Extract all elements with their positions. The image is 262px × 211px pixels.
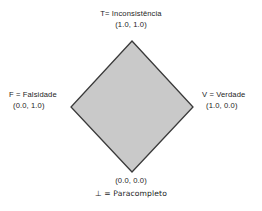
vertex-label-bottom: (0.0, 0.0) ⊥ = Paracompleto bbox=[0, 175, 262, 200]
vertex-label-bottom-name: ⊥ = Paracompleto bbox=[0, 188, 262, 199]
vertex-label-top: T= Inconsistência (1.0, 1.0) bbox=[0, 8, 262, 31]
diagram-canvas: T= Inconsistência (1.0, 1.0) F = Falsida… bbox=[0, 0, 262, 211]
diamond-shape bbox=[71, 41, 193, 172]
vertex-label-right: V = Verdade (1.0, 0.0) bbox=[202, 89, 245, 112]
vertex-label-left-coord: (0.0, 1.0) bbox=[9, 100, 57, 111]
vertex-label-right-coord: (1.0, 0.0) bbox=[202, 100, 245, 111]
vertex-label-top-name: T= Inconsistência bbox=[0, 8, 262, 19]
vertex-label-left-name: F = Falsidade bbox=[9, 89, 57, 100]
vertex-label-bottom-coord: (0.0, 0.0) bbox=[0, 175, 262, 186]
lattice-diagram: T= Inconsistência (1.0, 1.0) F = Falsida… bbox=[0, 0, 262, 211]
vertex-label-top-coord: (1.0, 1.0) bbox=[0, 19, 262, 30]
vertex-label-right-name: V = Verdade bbox=[202, 89, 245, 100]
vertex-label-left: F = Falsidade (0.0, 1.0) bbox=[9, 89, 57, 112]
